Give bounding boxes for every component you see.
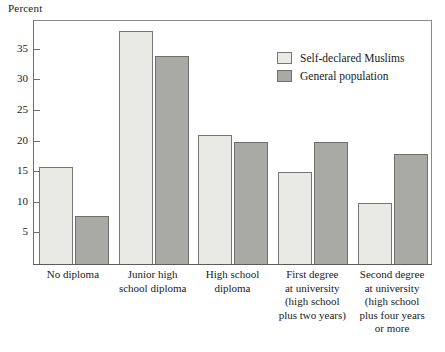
bar[interactable] (155, 56, 189, 264)
bar[interactable] (278, 172, 312, 264)
y-tick-label: 5 (23, 225, 29, 237)
x-axis-label-line: or more (352, 322, 432, 336)
x-axis-label-line: Second degree (352, 268, 432, 282)
y-axis-title: Percent (8, 2, 42, 14)
x-axis-label-line: First degree (272, 268, 352, 282)
x-axis-label-line: plus two years) (272, 309, 352, 323)
x-axis-label-line: High school (193, 268, 273, 282)
plot-area: 5101520253035 Self-declared MuslimsGener… (33, 20, 432, 265)
chart-legend: Self-declared MuslimsGeneral population (277, 52, 404, 82)
legend-item[interactable]: General population (277, 70, 404, 82)
bar-group (34, 21, 114, 264)
legend-item[interactable]: Self-declared Muslims (277, 52, 404, 64)
y-tick-label: 35 (17, 42, 28, 54)
legend-swatch-light (277, 52, 292, 64)
x-axis-label-line: school diploma (113, 282, 193, 296)
y-tick-label: 25 (17, 103, 28, 115)
x-axis-label: No diploma (33, 268, 113, 282)
bar[interactable] (234, 142, 268, 265)
bar[interactable] (358, 203, 392, 264)
legend-label: Self-declared Muslims (300, 52, 404, 64)
bar[interactable] (119, 31, 153, 264)
x-axis-label-line: No diploma (33, 268, 113, 282)
y-tick-label: 15 (17, 164, 28, 176)
y-tick-label: 30 (17, 72, 28, 84)
bar-group (114, 21, 194, 264)
x-axis-label: Junior highschool diploma (113, 268, 193, 295)
bar[interactable] (75, 216, 109, 264)
legend-swatch-dark (277, 70, 292, 82)
x-axis-label-line: Junior high (113, 268, 193, 282)
x-axis-label-line: at university (272, 282, 352, 296)
x-axis-label-line: (high school (272, 295, 352, 309)
x-axis-label-line: plus four years (352, 309, 432, 323)
y-tick-label: 10 (17, 195, 28, 207)
bar-group (194, 21, 274, 264)
x-axis-label: High schooldiploma (193, 268, 273, 295)
x-axis-label: First degreeat university(high schoolplu… (272, 268, 352, 322)
x-axis-label-line: at university (352, 282, 432, 296)
bar[interactable] (314, 142, 348, 265)
legend-label: General population (300, 70, 388, 82)
bar[interactable] (39, 167, 73, 264)
x-axis-category-labels: No diplomaJunior highschool diplomaHigh … (33, 268, 432, 350)
bar[interactable] (198, 135, 232, 264)
x-axis-label-line: (high school (352, 295, 432, 309)
bar[interactable] (394, 154, 428, 264)
x-axis-label-line: diploma (193, 282, 273, 296)
x-axis-label: Second degreeat university(high schoolpl… (352, 268, 432, 336)
y-tick-label: 20 (17, 134, 28, 146)
